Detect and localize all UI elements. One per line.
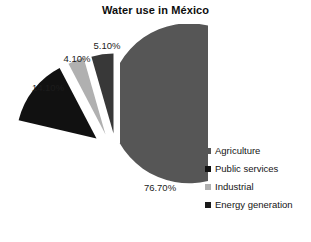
legend-item-industrial[interactable]: Industrial [205,178,309,195]
legend-label-industrial: Industrial [215,181,254,192]
legend-item-agriculture[interactable]: Agriculture [205,142,309,159]
legend-swatch-icon-industrial [205,184,211,190]
legend-swatch-icon-public-services [205,166,211,172]
slice-value-industrial: 4.10% [64,53,91,64]
legend-item-energy-generation[interactable]: Energy generation [205,196,309,213]
slice-value-energy-generation: 5.10% [94,40,121,51]
pie-chart-figure: Water use in México 76.70% 14.10% 4.10% … [0,0,311,242]
pie-slice-agriculture[interactable] [120,24,208,183]
legend-swatch-icon-agriculture [205,148,211,154]
slice-value-agriculture: 76.70% [144,182,177,193]
pie-svg: 76.70% 14.10% 4.10% 5.10% [8,24,208,238]
chart-legend: Agriculture Public services Industrial E… [205,142,309,214]
legend-swatch-icon-energy-generation [205,202,211,208]
legend-label-energy-generation: Energy generation [215,199,293,210]
chart-title: Water use in México [0,4,311,16]
legend-label-public-services: Public services [215,163,278,174]
legend-item-public-services[interactable]: Public services [205,160,309,177]
pie-slice-energy-generation[interactable] [91,54,113,134]
legend-label-agriculture: Agriculture [215,145,260,156]
pie-plot-area: 76.70% 14.10% 4.10% 5.10% [8,24,208,238]
slice-value-public-services: 14.10% [32,82,65,93]
